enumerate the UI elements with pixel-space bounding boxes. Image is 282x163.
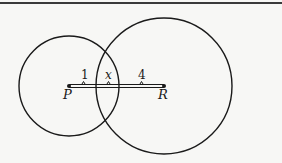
label-p: P: [62, 87, 72, 102]
label-x: x: [105, 68, 112, 82]
geometry-diagram: 1 x 4 P R: [0, 0, 282, 163]
label-r: R: [157, 87, 168, 102]
label-1: 1: [81, 68, 89, 82]
label-4: 4: [138, 68, 146, 82]
